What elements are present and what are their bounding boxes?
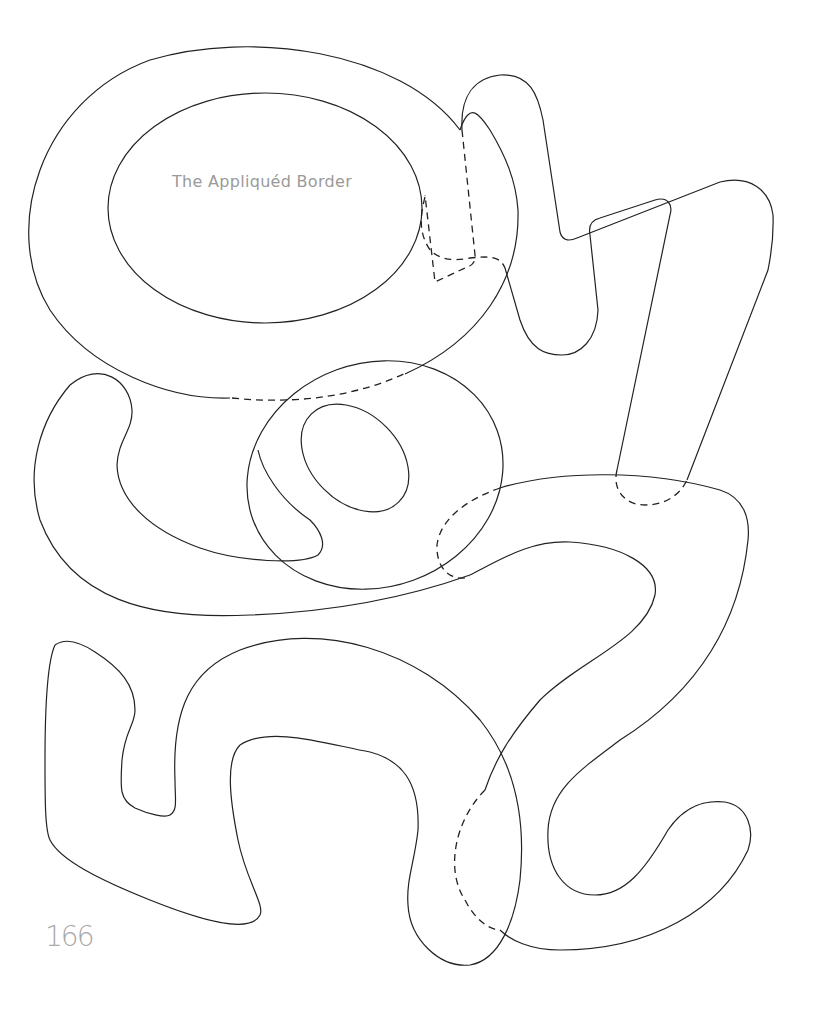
middle-ring-outer bbox=[215, 325, 536, 624]
bottom-five-outer bbox=[55, 638, 522, 965]
large-o-outer bbox=[29, 47, 460, 398]
numeral-seven-overlap bbox=[421, 130, 505, 282]
appliqué-template-art bbox=[0, 0, 833, 1017]
s-shape-upper bbox=[470, 542, 655, 790]
left-c-outer-lower bbox=[34, 385, 470, 616]
page-title: The Appliquéd Border bbox=[172, 172, 352, 191]
bottom-five-inner bbox=[45, 645, 261, 924]
s-shape-overlap-bottom bbox=[455, 790, 500, 930]
s-shape-top bbox=[500, 475, 751, 950]
large-o-overlap-bottom bbox=[232, 372, 408, 400]
document-page: The Appliquéd Border 166 bbox=[0, 0, 833, 1017]
middle-ring-inner bbox=[280, 383, 430, 533]
numeral-seven-outline bbox=[462, 75, 773, 480]
page-number: 166 bbox=[45, 920, 92, 953]
large-o-outer-right bbox=[405, 113, 518, 374]
large-o-inner bbox=[108, 93, 422, 323]
numeral-seven-inner bbox=[505, 199, 671, 470]
